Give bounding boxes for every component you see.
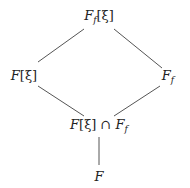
node-meet: F[ξ] ∩ Ff [70, 118, 128, 134]
node-meet-main2: F [116, 117, 125, 132]
node-left: F[ξ] [11, 69, 37, 82]
node-meet-tail: [ξ] ∩ [79, 117, 115, 132]
edge-left-meet [38, 86, 84, 116]
edge-top-left [38, 29, 84, 62]
node-left-main: F [11, 68, 20, 83]
node-right: Ff [162, 69, 174, 85]
node-right-sub: f [171, 75, 174, 85]
edge-top-right [114, 29, 162, 68]
node-left-tail: [ξ] [20, 68, 37, 83]
node-right-main: F [162, 68, 171, 83]
edge-right-meet [114, 86, 160, 116]
node-bottom: F [94, 170, 103, 183]
node-meet-main: F [70, 117, 79, 132]
node-bottom-main: F [94, 169, 103, 184]
node-top-main: F [84, 8, 93, 23]
node-top: Ff[ξ] [84, 9, 114, 25]
node-meet-sub2: f [125, 124, 128, 134]
node-top-tail: [ξ] [97, 8, 114, 23]
lattice-edges [0, 0, 190, 188]
